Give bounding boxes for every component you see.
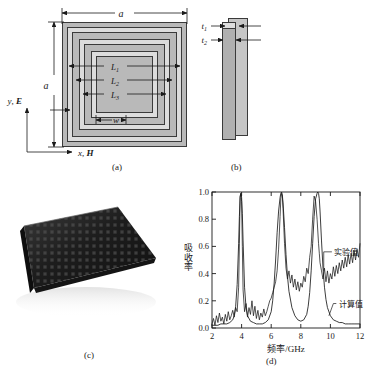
sample-photo bbox=[0, 180, 178, 376]
panel-a-top-view: a a L1 L2 L3 w y, E x, H (a) bbox=[0, 0, 195, 180]
thickness-label-t1: t1 bbox=[201, 21, 207, 32]
y-tick-label: 0.4 bbox=[198, 269, 209, 279]
y-tick-label: 0.2 bbox=[198, 296, 209, 306]
x-tick-label: 8 bbox=[299, 331, 303, 341]
panel-c-photograph: (c) bbox=[0, 180, 178, 376]
x-tick-label: 10 bbox=[326, 331, 335, 341]
ring-label-L3: L3 bbox=[110, 90, 119, 101]
y-axis-title: 吸收率 bbox=[184, 243, 193, 272]
panel-b-annotations: t1 t2 bbox=[195, 0, 367, 180]
panel-c-tag: (c) bbox=[84, 350, 94, 360]
x-tick-label: 12 bbox=[356, 331, 365, 341]
axis-label-y-E: y, E bbox=[6, 96, 22, 106]
thickness-label-t2: t2 bbox=[201, 35, 207, 46]
ring-label-L1: L1 bbox=[110, 62, 119, 73]
width-label-w: w bbox=[113, 115, 119, 125]
dim-a-left-label: a bbox=[44, 80, 49, 91]
panel-d-tag: (d) bbox=[266, 356, 277, 366]
x-tick-label: 6 bbox=[269, 331, 273, 341]
x-tick-label: 4 bbox=[239, 331, 244, 341]
panel-a-annotations: a a L1 L2 L3 w y, E x, H bbox=[0, 0, 195, 180]
panel-b-side-view: t1 t2 (b) bbox=[195, 0, 367, 180]
y-tick-label: 1.0 bbox=[198, 187, 209, 197]
annotation-label-calculated: 计算值 bbox=[339, 299, 363, 309]
panel-b-tag: (b) bbox=[231, 162, 242, 172]
axis-label-x-H: x, H bbox=[77, 148, 95, 158]
x-axis-title: 频率/GHz bbox=[267, 343, 305, 354]
panel-d-absorptivity-chart: 246810120.00.20.40.60.81.0频率/GHz吸收率实验值计算… bbox=[178, 180, 367, 376]
ring-label-L2: L2 bbox=[110, 76, 119, 87]
figure-metamaterial-absorber: a a L1 L2 L3 w y, E x, H (a) t1 t2 (b) bbox=[0, 0, 367, 386]
y-tick-label: 0.0 bbox=[198, 323, 209, 333]
x-tick-label: 2 bbox=[210, 331, 214, 341]
dim-a-top-label: a bbox=[119, 8, 124, 19]
absorptivity-spectrum-chart: 246810120.00.20.40.60.81.0频率/GHz吸收率实验值计算… bbox=[178, 180, 367, 376]
y-tick-label: 0.8 bbox=[198, 214, 209, 224]
annotation-label-experimental: 实验值 bbox=[334, 247, 358, 257]
panel-a-tag: (a) bbox=[112, 162, 122, 172]
y-tick-label: 0.6 bbox=[198, 241, 209, 251]
